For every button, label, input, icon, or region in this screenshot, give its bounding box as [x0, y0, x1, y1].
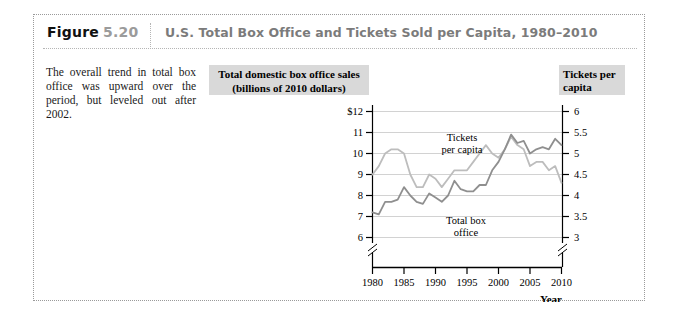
chart-area: $12 11 10 9 8 7 6	[34, 15, 646, 302]
right-axis	[558, 105, 567, 267]
line-chart: $12 11 10 9 8 7 6	[34, 15, 646, 302]
right-tick-label-4: 4	[574, 190, 580, 201]
left-axis	[368, 105, 377, 267]
right-tick-label-1: 5.5	[574, 127, 587, 138]
x-tick-label-0: 1980	[362, 277, 383, 288]
x-tick-label-5: 2005	[520, 277, 541, 288]
annotation-boxoffice-line2: office	[454, 227, 479, 238]
left-axis-ticks	[366, 112, 372, 238]
x-tick-label-3: 1995	[457, 277, 478, 288]
annotation-tickets-line2: per capita	[441, 144, 482, 155]
left-tick-label-0: $12	[347, 106, 363, 117]
left-tick-label-1: 11	[353, 127, 363, 138]
x-tick-label-2: 1990	[425, 277, 446, 288]
figure-frame: Figure 5.20 U.S. Total Box Office and Ti…	[33, 14, 645, 301]
left-tick-label-2: 10	[353, 148, 364, 159]
left-tick-label-4: 8	[358, 190, 363, 201]
left-tick-label-5: 7	[358, 211, 363, 222]
right-tick-label-3: 4.5	[574, 169, 587, 180]
left-tick-label-3: 9	[358, 169, 363, 180]
right-tick-label-2: 5	[574, 148, 579, 159]
annotation-tickets-line1: Tickets	[447, 132, 478, 143]
right-tick-label-6: 3	[574, 232, 579, 243]
x-tick-label-1: 1985	[394, 277, 415, 288]
annotation-boxoffice-line1: Total box	[446, 215, 487, 226]
x-axis-title: Year	[540, 293, 562, 302]
right-tick-label-5: 3.5	[574, 211, 587, 222]
x-tick-label-6: 2010	[551, 277, 572, 288]
right-tick-label-0: 6	[574, 106, 579, 117]
left-tick-label-6: 6	[358, 232, 363, 243]
x-tick-label-4: 2000	[488, 277, 509, 288]
